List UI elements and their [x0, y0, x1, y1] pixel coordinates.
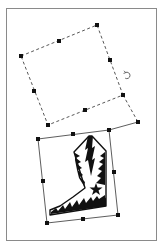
handle-bottom-left[interactable]: [45, 221, 49, 225]
handle-bottom-right[interactable]: [116, 213, 120, 217]
drawing-canvas[interactable]: [0, 0, 165, 247]
handle-left-middle[interactable]: [41, 179, 45, 183]
handle-bottom-left[interactable]: [46, 123, 50, 127]
rotate-arrow-icon: [124, 71, 130, 79]
handle-top-right[interactable]: [107, 128, 111, 132]
handle-bottom-right[interactable]: [121, 93, 125, 97]
handle-right-middle[interactable]: [112, 170, 116, 174]
handle-top-right[interactable]: [95, 23, 99, 27]
handle-top-middle[interactable]: [57, 39, 61, 43]
handle-right-middle[interactable]: [108, 58, 112, 62]
handle-top-middle[interactable]: [71, 132, 75, 136]
ghost-selection-handles[interactable]: [19, 23, 125, 127]
handle-top-left[interactable]: [19, 54, 23, 58]
handle-top-left[interactable]: [36, 137, 40, 141]
handle-rotate-anchor[interactable]: [136, 120, 140, 124]
cowboy-boot-image[interactable]: [50, 136, 106, 215]
ghost-selection-outline: [21, 25, 138, 125]
handle-bottom-middle[interactable]: [81, 217, 85, 221]
handle-bottom-middle[interactable]: [83, 108, 87, 112]
handle-left-middle[interactable]: [32, 89, 36, 93]
